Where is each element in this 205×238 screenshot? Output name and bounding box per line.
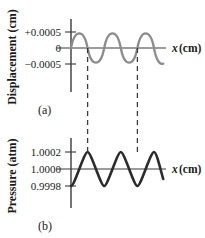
panel-b-xlabel-symbol: x: [171, 163, 178, 175]
displacement-curve: [71, 33, 163, 64]
panel-a-ytick-label-0: +0.0005: [25, 26, 62, 38]
panel-a-xlabel-symbol: x: [171, 42, 178, 54]
physics-figure-sound-wave: +0.0005 0 −0.0005 x (cm) Displacement (c…: [0, 0, 205, 238]
panel-a-ytick-label-2: −0.0005: [25, 58, 62, 70]
figure-canvas: +0.0005 0 −0.0005 x (cm) Displacement (c…: [0, 0, 205, 238]
panel-b-ytick-label-1: 1.0000: [31, 163, 62, 175]
panel-b-ytick-label-2: 0.9998: [31, 180, 62, 192]
panel-a-group: +0.0005 0 −0.0005 x (cm) Displacement (c…: [5, 9, 202, 117]
panel-b-ylabel: Pressure (atm): [5, 138, 19, 213]
panel-b-ytick-label-0: 1.0002: [31, 146, 61, 158]
panel-b-xlabel-unit: (cm): [179, 163, 202, 176]
panel-b-group: 1.0002 1.0000 0.9998 x (cm) Pressure (at…: [5, 138, 202, 233]
panel-b-label: (b): [38, 219, 52, 233]
panel-a-label: (a): [38, 103, 51, 117]
panel-a-ytick-label-1: 0: [56, 42, 62, 54]
panel-a-xlabel-unit: (cm): [179, 42, 202, 55]
panel-a-ylabel: Displacement (cm): [5, 9, 19, 105]
